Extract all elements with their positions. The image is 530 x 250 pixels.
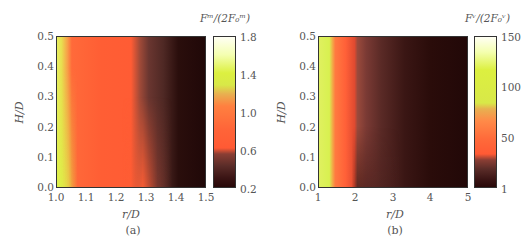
- cbtick-a-0.2: 0.2: [240, 184, 257, 195]
- colorbar-title-a: Fᵐ/(2F₀ᵐ): [200, 12, 250, 24]
- ytick-b-0.5: 0.5: [292, 31, 316, 42]
- xlabel-a: r/D: [122, 208, 140, 221]
- xtick-b-1: 1: [303, 192, 333, 203]
- colorbar-a: [213, 36, 236, 188]
- xtick-a-1.0: 1.0: [41, 192, 71, 203]
- ytick-b-0.2: 0.2: [292, 122, 316, 133]
- caption-a: (a): [113, 224, 153, 237]
- heatmap-plot-a: [56, 36, 206, 188]
- heatmap-plot-b: [318, 36, 468, 188]
- xtick-a-1.5: 1.5: [191, 192, 221, 203]
- xtick-a-1.3: 1.3: [131, 192, 161, 203]
- xtick-b-5: 5: [453, 192, 483, 203]
- cbtick-b-150: 150: [501, 32, 521, 43]
- ylabel-b: H/D: [275, 101, 288, 123]
- ytick-a-0.1: 0.1: [30, 152, 54, 163]
- xtick-b-2: 2: [340, 192, 370, 203]
- colorbar-title-b: Fᵛ/(2F₀ᵛ): [465, 12, 510, 24]
- ytick-a-0.5: 0.5: [30, 31, 54, 42]
- panel-b: Fᵛ/(2F₀ᵛ) 0.5 0.4 0.3 0.2 0.1 0.0 H/D 1 …: [265, 0, 530, 250]
- ylabel-a: H/D: [13, 101, 26, 123]
- ytick-b-0.4: 0.4: [292, 61, 316, 72]
- ytick-b-0.3: 0.3: [292, 91, 316, 102]
- heatmap-b-bottom-shade: [319, 37, 467, 187]
- xtick-a-1.2: 1.2: [101, 192, 131, 203]
- ytick-a-0.2: 0.2: [30, 122, 54, 133]
- caption-b: (b): [375, 224, 415, 237]
- xtick-b-3: 3: [378, 192, 408, 203]
- ytick-a-0.4: 0.4: [30, 61, 54, 72]
- heatmap-a-left-edge: [57, 37, 205, 187]
- panel-a: Fᵐ/(2F₀ᵐ) 0.5 0.4 0.3 0.2 0.1 0.0 H/D 1.…: [0, 0, 265, 250]
- ytick-a-0.3: 0.3: [30, 91, 54, 102]
- colorbar-b: [474, 36, 497, 188]
- xtick-b-4: 4: [415, 192, 445, 203]
- xtick-a-1.1: 1.1: [71, 192, 101, 203]
- cbtick-a-1.8: 1.8: [240, 32, 257, 43]
- cbtick-a-1.0: 1.0: [240, 108, 257, 119]
- cbtick-b-50: 50: [501, 133, 514, 144]
- xtick-a-1.4: 1.4: [161, 192, 191, 203]
- cbtick-a-1.4: 1.4: [240, 70, 257, 81]
- cbtick-b-100: 100: [501, 82, 521, 93]
- ytick-b-0.1: 0.1: [292, 152, 316, 163]
- cbtick-a-0.6: 0.6: [240, 146, 257, 157]
- cbtick-b-1: 1: [501, 184, 508, 195]
- ytick-b-0.0: 0.0: [292, 182, 316, 193]
- xlabel-b: r/D: [386, 208, 404, 221]
